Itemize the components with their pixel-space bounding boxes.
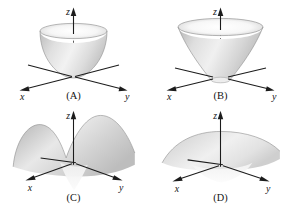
z-arrowhead-a bbox=[71, 8, 77, 17]
x-axis-label-b: x bbox=[166, 91, 172, 102]
y-arrowhead-c bbox=[112, 175, 122, 180]
panel-caption-a: (A) bbox=[66, 90, 81, 102]
z-axis-label-d: z bbox=[212, 110, 217, 121]
z-axis-label-c: z bbox=[65, 110, 70, 121]
y-axis-b bbox=[228, 79, 269, 89]
x-arrowhead-c bbox=[25, 175, 35, 180]
panel-caption-b: (B) bbox=[214, 90, 229, 102]
y-axis-label-a: y bbox=[124, 91, 130, 102]
panel-caption-c: (C) bbox=[67, 192, 81, 204]
x-axis-b bbox=[172, 79, 213, 89]
x-axis-label-a: x bbox=[19, 91, 25, 102]
x-axis-a bbox=[25, 77, 72, 89]
x-arrowhead-d bbox=[172, 176, 182, 181]
panel-b: z x y (B) bbox=[147, 0, 294, 104]
panel-d: z x y (D) bbox=[147, 102, 294, 206]
x-axis-label-c: x bbox=[27, 182, 33, 193]
y-axis-label-b: y bbox=[271, 91, 277, 102]
z-axis-label-a: z bbox=[65, 6, 70, 17]
panel-caption-d: (D) bbox=[213, 192, 227, 204]
z-axis-label-b: z bbox=[212, 6, 217, 17]
y-axis-label-d: y bbox=[265, 183, 271, 194]
y-axis-label-c: y bbox=[118, 182, 124, 193]
z-arrowhead-d bbox=[218, 111, 223, 119]
surface-waist-b bbox=[211, 77, 230, 83]
panel-c: z x y (C) bbox=[0, 102, 147, 206]
y-arrowhead-d bbox=[259, 176, 269, 181]
x-axis-label-d: x bbox=[174, 183, 180, 194]
y-axis-a bbox=[75, 77, 122, 89]
z-arrowhead-b bbox=[218, 8, 224, 17]
panel-a: z x y (A) bbox=[0, 0, 147, 104]
z-arrowhead-c bbox=[71, 111, 76, 119]
surface-figure: z x y (A) bbox=[0, 0, 294, 208]
